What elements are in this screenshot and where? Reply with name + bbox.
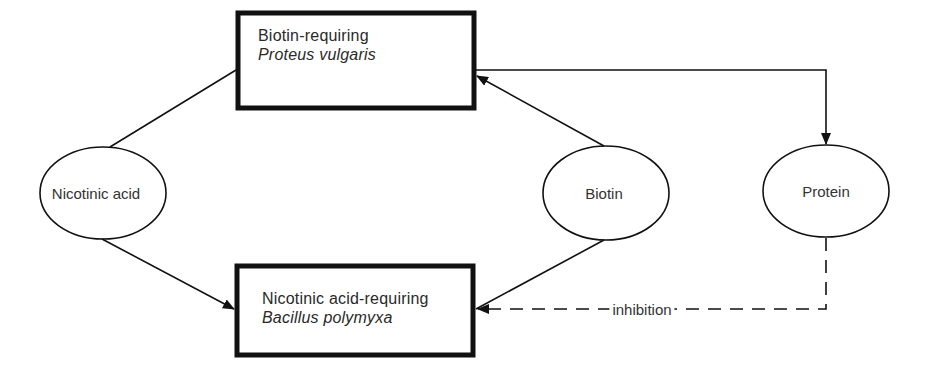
bacillus-line2: Bacillus polymyxa <box>262 308 429 327</box>
proteus-line1: Biotin-requiring <box>258 26 376 45</box>
proteus-line2: Proteus vulgaris <box>258 45 376 64</box>
edge-biotin-to-proteus <box>477 76 604 146</box>
nicotinic-acid-label: Nicotinic acid <box>52 185 140 202</box>
protein-label: Protein <box>802 183 850 200</box>
bacillus-line1: Nicotinic acid-requiring <box>262 289 429 308</box>
inhibition-label: inhibition <box>609 301 674 318</box>
edge-nicotinic-to-proteus <box>110 70 236 147</box>
biotin-label: Biotin <box>585 185 623 202</box>
bacillus-label: Nicotinic acid-requiring Bacillus polymy… <box>262 289 429 327</box>
edge-protein-inhibits-bacillus <box>478 238 826 309</box>
edge-biotin-to-bacillus <box>476 240 604 309</box>
proteus-label: Biotin-requiring Proteus vulgaris <box>258 26 376 64</box>
edge-nicotinic-to-bacillus <box>102 239 234 309</box>
edge-proteus-to-protein <box>476 70 826 144</box>
